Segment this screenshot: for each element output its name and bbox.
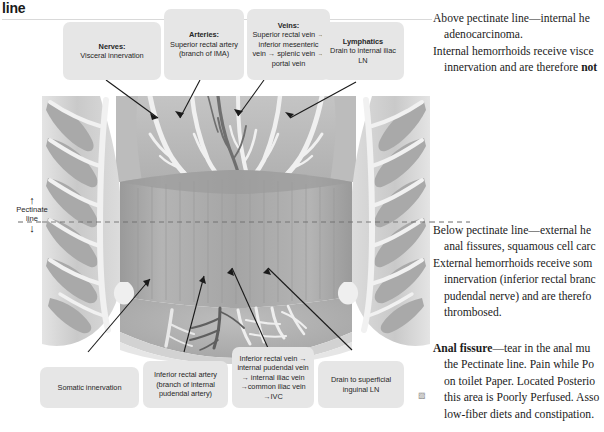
anal-canal-illustration [42, 96, 430, 364]
callout-arteries-body: Superior rectal artery (branch of IMA) [168, 40, 240, 59]
body-bot-line-1: —tear in the anal mu [492, 342, 590, 355]
body-text-above-pectinate: Above pectinate line—internal he adenoca… [433, 11, 604, 77]
body-top-line-1: Above pectinate line—internal he [433, 11, 604, 27]
body-mid-line-1: Below pectinate line—external he [433, 223, 604, 239]
callout-inferior-rectal-artery-body: Inferior rectal artery (branch of intern… [147, 370, 224, 398]
callout-somatic-innervation: Somatic innervation [40, 367, 139, 408]
arrow-down-icon: ↓ [4, 223, 60, 233]
body-text-anal-fissure: Anal fissure—tear in the anal mu the Pec… [433, 341, 604, 423]
callout-nerves-body: Visceral innervation [80, 51, 143, 60]
running-head: line [2, 0, 25, 16]
callout-veins-title: Veins: [278, 21, 299, 30]
callout-arteries: Arteries: Superior rectal artery (branch… [164, 9, 244, 80]
callout-superficial-inguinal-ln: Drain to superficial inguinal LN [318, 361, 404, 408]
body-top-line-2: adenocarcinoma. [433, 27, 604, 43]
callout-lymphatics-title: Lymphatics [343, 37, 383, 46]
body-mid-line-3: External hemorrhoids receive som [433, 256, 604, 272]
body-text-below-pectinate: Below pectinate line—external he anal fi… [433, 223, 604, 321]
callout-nerves: Nerves: Visceral innervation [63, 22, 161, 80]
callout-inferior-rectal-vein: Inferior rectal vein → internal pudendal… [232, 347, 314, 408]
callout-inferior-rectal-vein-body: Inferior rectal vein → internal pudendal… [236, 354, 310, 401]
body-bot-line-5: low-fiber diets and constipation. [433, 407, 604, 423]
callout-veins-body: Superior rectal vein → inferior mesenter… [251, 30, 326, 68]
callout-lymphatics: Lymphatics Drain to internal iliac LN [322, 22, 404, 80]
body-bot-line-2: the Pectinate line. Pain while Po [433, 357, 604, 373]
body-top-line-4: innervation and are therefore [444, 61, 581, 74]
callout-lymphatics-body: Drain to internal iliac LN [326, 46, 400, 65]
body-bot-line-3: on toilet Paper. Located Posterio [433, 374, 604, 390]
scan-artifact-glyph: ▨ [418, 391, 427, 400]
anal-fissure-lead: Anal fissure [433, 342, 492, 355]
arrow-up-icon: ↑ [4, 195, 60, 205]
body-mid-line-5: pudendal nerve) and are therefo [433, 289, 604, 305]
body-top-line-3: Internal hemorrhoids receive visce [433, 44, 604, 60]
pectinate-line-marker: ↑ Pectinate line ↓ [4, 195, 60, 233]
callout-somatic-innervation-body: Somatic innervation [58, 383, 122, 392]
callout-superficial-inguinal-ln-body: Drain to superficial inguinal LN [322, 375, 400, 394]
body-mid-line-2: anal fissures, squamous cell carc [433, 239, 604, 255]
body-mid-line-4: innervation (inferior rectal branc [433, 272, 604, 288]
callout-arteries-title: Arteries: [189, 30, 219, 39]
body-bot-line-4: this area is Poorly Perfused. Asso [433, 390, 604, 406]
body-top-bold-tail: not [581, 61, 597, 74]
callout-inferior-rectal-artery: Inferior rectal artery (branch of intern… [143, 361, 228, 408]
callout-veins: Veins: Superior rectal vein → inferior m… [247, 9, 330, 80]
pectinate-label-line1: Pectinate [16, 205, 48, 214]
body-mid-line-6: thrombosed. [433, 305, 604, 321]
callout-nerves-title: Nerves: [99, 42, 126, 51]
